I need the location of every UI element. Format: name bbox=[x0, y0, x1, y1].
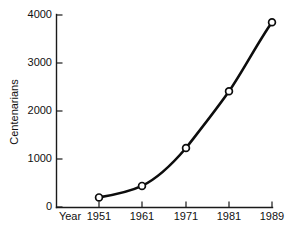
x-tick-label-1951: 1951 bbox=[87, 210, 111, 222]
y-tick-label-1000: 1000 bbox=[28, 152, 52, 164]
x-tick-label-1981: 1981 bbox=[217, 210, 241, 222]
data-point-1951 bbox=[96, 194, 103, 201]
data-point-1989 bbox=[269, 19, 276, 26]
y-tick-label-4000: 4000 bbox=[28, 8, 52, 20]
x-tick-label-1989: 1989 bbox=[260, 210, 284, 222]
x-tick-label-1961: 1961 bbox=[130, 210, 154, 222]
y-tick-label-0: 0 bbox=[46, 200, 52, 212]
plot-background bbox=[0, 0, 293, 233]
data-point-1981 bbox=[226, 88, 233, 95]
line-chart: 4000 3000 2000 1000 0 1951 1961 1971 198… bbox=[0, 0, 293, 233]
y-tick-label-3000: 3000 bbox=[28, 56, 52, 68]
y-tick-label-2000: 2000 bbox=[28, 104, 52, 116]
chart-container: 4000 3000 2000 1000 0 1951 1961 1971 198… bbox=[0, 0, 293, 233]
y-axis-title: Centenarians bbox=[8, 79, 20, 145]
x-tick-label-1971: 1971 bbox=[174, 210, 198, 222]
x-axis-title: Year bbox=[59, 210, 82, 222]
data-point-1961 bbox=[139, 183, 146, 190]
data-point-1971 bbox=[183, 145, 190, 152]
